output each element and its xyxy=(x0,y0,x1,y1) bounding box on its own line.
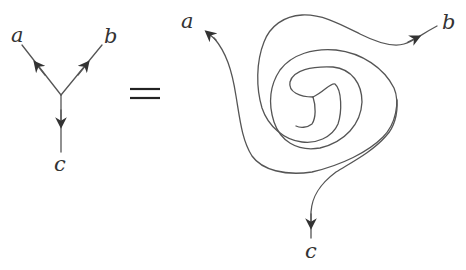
arrow-icon xyxy=(209,34,216,40)
arrow-icon xyxy=(408,38,416,42)
label-a: a xyxy=(181,9,194,33)
arrow-icon xyxy=(37,65,45,75)
label-a: a xyxy=(11,23,24,47)
strand-b xyxy=(258,15,437,142)
label-c: c xyxy=(54,152,66,176)
label-b: b xyxy=(442,10,455,34)
strand-c xyxy=(296,97,315,127)
label-c: c xyxy=(305,239,317,263)
left-vertex-diagram: a b c xyxy=(11,23,117,176)
label-b: b xyxy=(104,24,117,48)
equals-sign xyxy=(130,89,160,98)
strand-a xyxy=(214,38,397,173)
arrow-icon xyxy=(78,65,86,75)
right-spiral-diagram: a b c xyxy=(181,9,455,263)
diagram-canvas: a b c a b c xyxy=(0,0,466,270)
